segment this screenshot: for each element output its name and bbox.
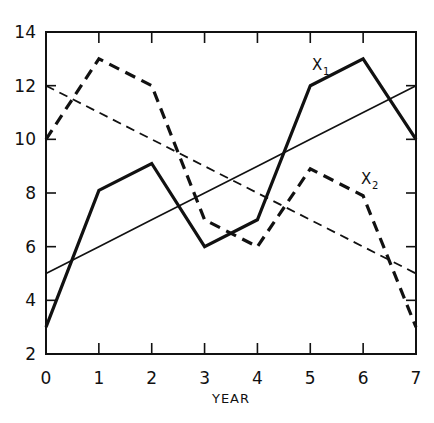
series-group bbox=[46, 59, 416, 327]
y-tick-label: 14 bbox=[14, 22, 36, 42]
series-label-x1: X bbox=[312, 56, 322, 74]
line-chart: 2468101214 01234567 X1X2 YEAR bbox=[0, 0, 434, 423]
series-label-subscript: 1 bbox=[323, 66, 329, 77]
x-tick-label: 3 bbox=[199, 368, 210, 388]
y-tick-label: 8 bbox=[25, 183, 36, 203]
x-tick-label: 7 bbox=[411, 368, 422, 388]
x-tick-label: 5 bbox=[305, 368, 316, 388]
x-axis: 01234567 bbox=[41, 32, 422, 388]
y-tick-label: 4 bbox=[25, 290, 36, 310]
y-tick-label: 12 bbox=[14, 76, 36, 96]
series-x2 bbox=[46, 59, 416, 327]
x-tick-label: 6 bbox=[358, 368, 369, 388]
x-tick-label: 0 bbox=[41, 368, 52, 388]
series-label-subscript: 2 bbox=[372, 180, 378, 191]
y-tick-label: 10 bbox=[14, 129, 36, 149]
x-tick-label: 4 bbox=[252, 368, 263, 388]
x-tick-label: 2 bbox=[146, 368, 157, 388]
series-label-x2: X bbox=[361, 170, 371, 188]
y-tick-label: 2 bbox=[25, 344, 36, 364]
series-labels: X1X2 bbox=[312, 56, 378, 191]
x-tick-label: 1 bbox=[93, 368, 104, 388]
x-axis-title: YEAR bbox=[211, 391, 250, 406]
y-tick-label: 6 bbox=[25, 237, 36, 257]
